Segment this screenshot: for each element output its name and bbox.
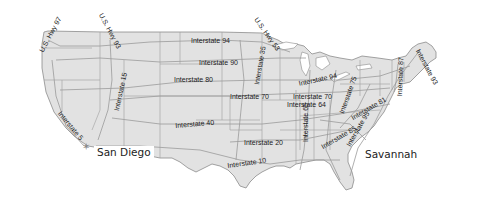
- city-label-savannah: Savannah: [362, 148, 420, 162]
- route-label-interstate-65: Interstate 65: [302, 103, 309, 142]
- route-label-interstate-87: Interstate 87: [396, 57, 404, 96]
- route-label-interstate-70-west: Interstate 70: [230, 93, 269, 100]
- city-label-san-diego: San Diego: [94, 146, 154, 160]
- route-label-interstate-80: Interstate 80: [174, 76, 213, 83]
- us-highway-map: ✶ San Diego Savannah U.S. Hwy 97 U.S. Hw…: [0, 0, 484, 212]
- route-label-interstate-94-west: Interstate 94: [191, 37, 230, 44]
- us-map-outline: [0, 0, 484, 212]
- route-label-interstate-70-east: Interstate 70: [293, 93, 332, 100]
- san-diego-marker-icon: ✶: [82, 142, 90, 152]
- route-label-interstate-90: Interstate 90: [199, 59, 238, 66]
- route-label-interstate-20: Interstate 20: [244, 139, 283, 146]
